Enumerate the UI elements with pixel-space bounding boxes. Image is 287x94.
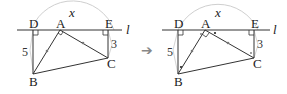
- label-l: l: [273, 22, 277, 37]
- segment-BC: [33, 58, 108, 74]
- angle-mark-A-right: [214, 32, 216, 34]
- length-DB: 5: [22, 45, 28, 59]
- angle-mark-A-left: [200, 33, 202, 35]
- label-A: A: [56, 16, 66, 31]
- segment-AC: [60, 30, 108, 58]
- tick-AC: [82, 42, 85, 45]
- tick-AC: [227, 42, 230, 45]
- label-B: B: [174, 74, 183, 89]
- circle-arc-lower: [173, 30, 178, 74]
- tick-AB: [191, 50, 194, 53]
- label-l: l: [126, 22, 130, 37]
- length-EC: 3: [111, 37, 117, 51]
- angle-mark-C: [250, 52, 252, 54]
- label-C: C: [107, 56, 116, 71]
- segment-BC: [178, 58, 254, 74]
- label-x: x: [214, 5, 221, 20]
- label-C: C: [253, 56, 262, 71]
- figure-left: D A E B C l x 5 3: [17, 1, 130, 89]
- angle-mark-B: [180, 66, 182, 68]
- tick-AB: [46, 50, 49, 53]
- segment-AC: [205, 30, 254, 58]
- label-D: D: [174, 16, 183, 31]
- length-DB: 5: [167, 45, 173, 59]
- label-E: E: [105, 16, 113, 31]
- label-A: A: [201, 16, 211, 31]
- label-D: D: [29, 16, 38, 31]
- label-E: E: [251, 16, 259, 31]
- arrow-icon: ➔: [141, 42, 153, 58]
- label-B: B: [29, 74, 38, 89]
- label-x: x: [68, 5, 75, 20]
- length-EC: 3: [257, 37, 263, 51]
- figure-right: D A E B C l x 5 3: [162, 4, 277, 89]
